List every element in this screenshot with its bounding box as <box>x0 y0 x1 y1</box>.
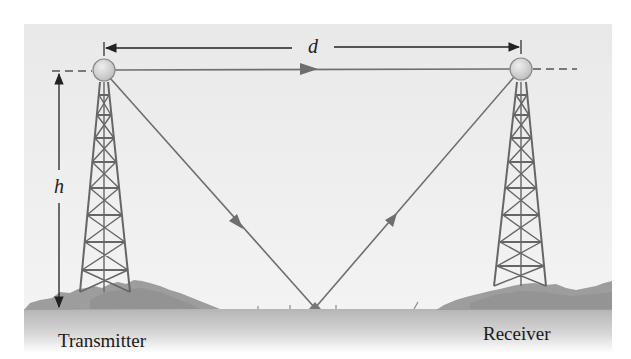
transmitter-antenna <box>93 59 115 81</box>
radio-propagation-diagram: d h Transmitter Receiver <box>0 0 631 359</box>
transmitter-label: Transmitter <box>58 330 147 351</box>
height-label: h <box>54 175 64 197</box>
receiver-label: Receiver <box>483 323 551 344</box>
diagram-canvas: d h Transmitter Receiver <box>0 0 631 359</box>
receiver-antenna <box>510 58 532 80</box>
distance-label: d <box>308 35 319 57</box>
